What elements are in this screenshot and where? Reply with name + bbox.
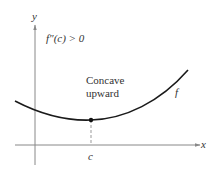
x-axis-label: x bbox=[201, 139, 206, 150]
condition-label: f″(c) > 0 bbox=[46, 33, 84, 44]
annotation-line2: upward bbox=[86, 88, 119, 99]
y-axis-label: y bbox=[32, 11, 37, 22]
curve-label: f bbox=[175, 87, 178, 98]
point-c bbox=[89, 118, 93, 122]
annotation-line1: Concave bbox=[86, 75, 124, 86]
point-label: c bbox=[88, 151, 93, 162]
